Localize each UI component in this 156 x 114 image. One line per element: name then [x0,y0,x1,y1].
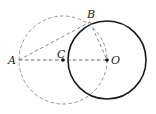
label-b: B [86,8,95,21]
segment-ab [19,22,90,60]
label-o: O [111,54,120,67]
segment-bo [90,22,107,60]
label-c: C [57,48,66,61]
geometry-diagram: A B C O [0,0,156,114]
point-o-dot [105,58,109,62]
label-a: A [7,54,16,67]
